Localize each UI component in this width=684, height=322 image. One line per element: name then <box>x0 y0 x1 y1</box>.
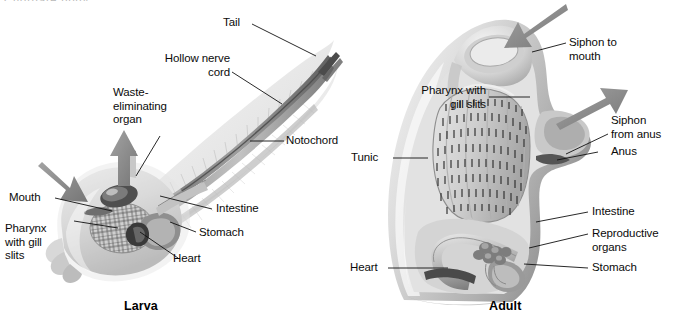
caption-adult: Adult <box>489 299 521 313</box>
label-tunic: Tunic <box>351 151 378 165</box>
label-heart-larva: Heart <box>173 252 201 266</box>
label-reproductive-organs: Reproductive organs <box>592 227 680 254</box>
label-intestine-adult: Intestine <box>592 205 635 219</box>
label-notochord: Notochord <box>286 134 338 148</box>
label-pharynx-with-gill-slits: Pharynx with gill slits <box>5 222 75 263</box>
label-hollow-nerve-cord: Hollow nerve cord <box>128 52 230 79</box>
label-intestine-larva: Intestine <box>216 202 259 216</box>
cropped-header-text: Chordate body <box>4 0 89 1</box>
caption-larva: Larva <box>124 299 158 313</box>
label-siphon-to-mouth: Siphon to mouth <box>569 36 659 63</box>
figure-canvas: Chordate body <box>0 0 684 322</box>
label-heart-adult: Heart <box>350 261 378 275</box>
label-mouth: Mouth <box>9 191 40 205</box>
label-siphon-from-anus: Siphon from anus <box>611 114 683 141</box>
label-waste-eliminating-organ: Waste- eliminating organ <box>113 86 197 127</box>
label-stomach-adult: Stomach <box>592 261 637 275</box>
label-anus: Anus <box>611 145 637 159</box>
label-tail: Tail <box>223 16 240 30</box>
label-pharynx-with-gill-slits-adult: Pharynx with gill slits <box>348 84 486 111</box>
label-stomach-larva: Stomach <box>199 226 244 240</box>
